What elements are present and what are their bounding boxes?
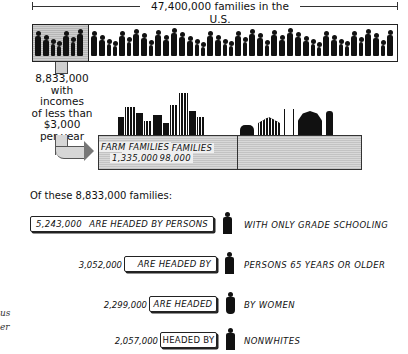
city-skyline-icon — [118, 92, 205, 135]
person-figure-icon — [257, 38, 263, 56]
person-figure-icon — [215, 40, 221, 56]
silo-icon — [326, 111, 333, 135]
person-figure-icon — [63, 36, 69, 56]
low-income-count: 8,833,000 — [30, 73, 94, 85]
farm-value: 1,335,000 — [110, 153, 160, 163]
person-figure-icon — [71, 42, 75, 56]
person-figure-icon — [345, 46, 349, 56]
row-tail: PERSONS 65 YEARS OR OLDER — [244, 260, 385, 270]
row-elderly-box: ARE HEADED BY — [124, 256, 217, 272]
person-figure-icon — [279, 40, 285, 56]
person-figure-icon — [249, 34, 255, 56]
person-figure-icon — [311, 44, 315, 56]
person-figure-icon — [127, 42, 131, 56]
low-income-line3: $3,000 — [30, 119, 94, 131]
person-figure-icon — [155, 35, 161, 56]
low-income-families-segment — [32, 24, 89, 62]
row-value: 2,299,000 — [80, 300, 147, 310]
row-tail: NONWHITES — [244, 336, 300, 346]
person-figure-icon — [179, 37, 185, 56]
person-figure-icon — [295, 37, 301, 56]
person-figure-icon — [265, 45, 269, 56]
margin-fragment: er — [0, 322, 10, 332]
person-figure-icon — [331, 40, 337, 56]
person-figure-icon — [235, 36, 241, 56]
person-figure-icon — [77, 34, 83, 56]
family-figures-low-income — [35, 28, 86, 56]
row-tail: BY WOMEN — [244, 300, 295, 310]
person-figure-icon — [91, 36, 97, 56]
bracket-right-tick — [397, 2, 398, 10]
row-box-text: ARE HEADED — [154, 299, 213, 309]
person-figure-icon — [243, 42, 247, 56]
person-figure-icon — [107, 44, 111, 56]
nonfarm-farm-bar: NONFARM FAMILIES 7,498,000 FARM FAMILIES… — [98, 135, 362, 170]
person-figure-icon — [323, 36, 329, 56]
person-figure-icon — [113, 46, 117, 56]
farm-buildings-icon — [240, 108, 333, 135]
person-figure-icon — [359, 42, 363, 56]
person-figure-icon — [287, 33, 293, 56]
person-figure-icon — [207, 36, 213, 56]
person-figure-icon — [339, 44, 343, 56]
row-value: 5,243,000 — [36, 219, 82, 229]
person-figure-icon — [223, 44, 227, 56]
row-tail: WITH ONLY GRADE SCHOOLING — [244, 220, 388, 230]
person-figure-icon — [317, 47, 321, 56]
farm-segment: FARM FAMILIES 1,335,000 — [99, 136, 171, 169]
person-figure-icon — [163, 40, 169, 56]
farmhouse-icon — [258, 117, 280, 135]
family-figures-other — [91, 28, 395, 56]
haystack-icon — [240, 125, 254, 135]
row-value: 2,057,000 — [90, 336, 158, 346]
row-value: 3,052,000 — [60, 260, 122, 270]
person-figure-icon — [141, 38, 147, 56]
person-figure-icon — [229, 46, 233, 56]
farm-label: FARM FAMILIES — [99, 142, 171, 152]
low-income-label: 8,833,000 with incomes of less than $3,0… — [30, 73, 94, 142]
person-figure-icon — [51, 44, 55, 56]
person-figure-icon — [43, 40, 49, 56]
person-figure-icon — [171, 33, 177, 56]
row-box-text: HEADED BY — [163, 335, 215, 345]
person-figure-icon — [271, 35, 277, 56]
row-nonwhites-box: HEADED BY — [160, 332, 217, 348]
person-figure-icon — [195, 44, 199, 56]
row-women-box: ARE HEADED — [149, 296, 217, 312]
person-figure-icon — [133, 34, 139, 56]
subtitle: Of these 8,833,000 families: — [30, 190, 172, 201]
person-figure-icon — [303, 41, 309, 56]
person-figure-icon — [119, 36, 125, 56]
windmill-icon — [284, 109, 294, 135]
margin-fragment: us — [0, 308, 10, 318]
person-figure-icon — [351, 36, 357, 56]
row-grade-schooling-box: 5,243,000 ARE HEADED BY PERSONS — [30, 216, 214, 232]
total-families-label: 47,400,000 families in the U.S. — [140, 0, 300, 26]
other-families-segment — [88, 24, 398, 62]
row-box-text: ARE HEADED BY — [138, 259, 211, 269]
elderly-person-icon — [224, 252, 235, 274]
person-figure-icon — [57, 46, 61, 56]
row-box-text: ARE HEADED BY PERSONS — [89, 219, 208, 229]
person-figure-icon — [201, 47, 205, 56]
low-income-line1: with incomes — [30, 85, 94, 108]
person-figure-icon — [99, 40, 105, 56]
person-figure-icon — [381, 45, 385, 56]
barn-icon — [298, 111, 322, 135]
person-figure-icon — [387, 35, 393, 56]
person-figure-icon — [365, 34, 371, 56]
person-figure-icon — [35, 36, 41, 56]
woman-icon — [225, 292, 236, 314]
man-icon — [225, 328, 236, 350]
person-figure-icon — [149, 45, 153, 56]
schoolboy-icon — [222, 212, 233, 234]
person-figure-icon — [187, 41, 193, 56]
person-figure-icon — [373, 38, 379, 56]
